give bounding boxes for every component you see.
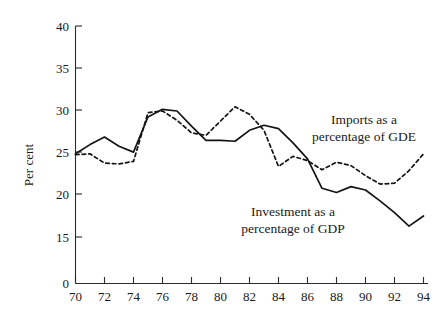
annotation-investment-line1: Investment as a bbox=[251, 204, 335, 219]
x-tick-label: 78 bbox=[185, 289, 198, 304]
chart-container: 40 35 30 25 20 15 0 Per cent bbox=[0, 0, 440, 319]
x-tick-label: 94 bbox=[417, 289, 431, 304]
y-axis-ticks bbox=[76, 26, 83, 237]
x-tick-label: 86 bbox=[301, 289, 315, 304]
y-tick-label: 35 bbox=[56, 61, 69, 76]
y-axis-title: Per cent bbox=[21, 143, 36, 186]
annotation-imports: Imports as a percentage of GDE bbox=[312, 112, 416, 144]
x-axis-ticks bbox=[76, 277, 424, 284]
x-tick-label: 90 bbox=[359, 289, 372, 304]
line-chart: 40 35 30 25 20 15 0 Per cent bbox=[0, 0, 440, 319]
annotation-imports-line1: Imports as a bbox=[331, 112, 397, 127]
y-tick-label: 20 bbox=[56, 187, 69, 202]
annotation-investment-line2: percentage of GDP bbox=[241, 221, 344, 236]
x-tick-label: 84 bbox=[272, 289, 286, 304]
x-tick-label: 92 bbox=[388, 289, 401, 304]
y-tick-label: 15 bbox=[56, 230, 69, 245]
y-axis-tick-labels: 40 35 30 25 20 15 0 bbox=[56, 19, 69, 291]
x-axis-tick-labels: 70 72 74 76 78 80 82 84 86 88 90 92 94 bbox=[69, 289, 431, 304]
x-tick-label: 76 bbox=[156, 289, 170, 304]
x-tick-label: 80 bbox=[214, 289, 227, 304]
annotation-investment: Investment as a percentage of GDP bbox=[241, 204, 344, 236]
annotation-imports-line2: percentage of GDE bbox=[312, 129, 416, 144]
x-tick-label: 72 bbox=[98, 289, 111, 304]
y-tick-label: 30 bbox=[56, 103, 69, 118]
x-tick-label: 82 bbox=[243, 289, 256, 304]
x-tick-label: 88 bbox=[330, 289, 343, 304]
x-tick-label: 70 bbox=[69, 289, 82, 304]
x-tick-label: 74 bbox=[127, 289, 141, 304]
y-tick-label: 40 bbox=[56, 19, 69, 34]
y-tick-label: 25 bbox=[56, 145, 69, 160]
